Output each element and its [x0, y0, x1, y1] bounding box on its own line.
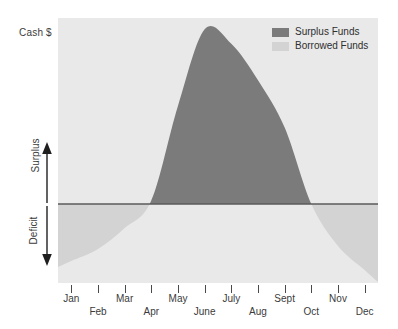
cash-flow-area-chart: [58, 18, 378, 283]
legend: Surplus Funds Borrowed Funds: [272, 26, 368, 52]
x-axis-label-sept: Sept: [274, 293, 295, 304]
legend-label: Surplus Funds: [295, 26, 359, 38]
x-axis-label-mar: Mar: [116, 293, 133, 304]
x-axis-tick: [338, 285, 339, 293]
x-axis-tick: [258, 285, 259, 293]
x-axis-tick: [311, 285, 312, 293]
x-axis-tick: [151, 285, 152, 293]
legend-swatch-icon: [272, 42, 289, 51]
x-axis-label-dec: Dec: [356, 306, 374, 317]
legend-item-borrowed-funds: Borrowed Funds: [272, 40, 368, 52]
x-axis-label-oct: Oct: [304, 306, 320, 317]
x-axis-label-feb: Feb: [89, 306, 106, 317]
plot-area: [58, 18, 378, 283]
x-axis-tick: [98, 285, 99, 293]
x-axis-label-nov: Nov: [329, 293, 347, 304]
x-axis-label-july: July: [222, 293, 240, 304]
x-axis-label-june: June: [194, 306, 216, 317]
legend-item-surplus-funds: Surplus Funds: [272, 26, 368, 38]
x-axis-label-may: May: [169, 293, 188, 304]
x-axis-tick: [231, 285, 232, 293]
chart-figure: Cash $ Surplus Deficit Surplus: [0, 0, 398, 329]
x-axis-label-apr: Apr: [144, 306, 160, 317]
y-axis-title: Cash $: [19, 27, 52, 38]
x-axis-tick: [365, 285, 366, 293]
x-axis-tick: [125, 285, 126, 293]
x-axis-tick: [71, 285, 72, 293]
x-axis-tick: [178, 285, 179, 293]
legend-swatch-icon: [272, 28, 289, 37]
surplus-deficit-arrows-icon: [36, 140, 58, 268]
x-axis-label-aug: Aug: [249, 306, 267, 317]
legend-label: Borrowed Funds: [295, 40, 368, 52]
x-axis-tick: [285, 285, 286, 293]
x-axis-tick: [205, 285, 206, 293]
x-axis: JanFebMarAprMayJuneJulyAugSeptOctNovDec: [0, 283, 398, 329]
x-axis-label-jan: Jan: [63, 293, 79, 304]
